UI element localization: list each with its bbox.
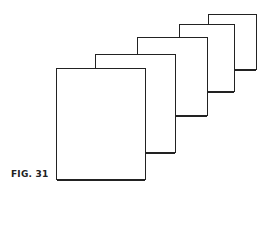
figure-caption: FIG. 31	[11, 169, 48, 179]
sheet-1-front	[56, 68, 146, 180]
